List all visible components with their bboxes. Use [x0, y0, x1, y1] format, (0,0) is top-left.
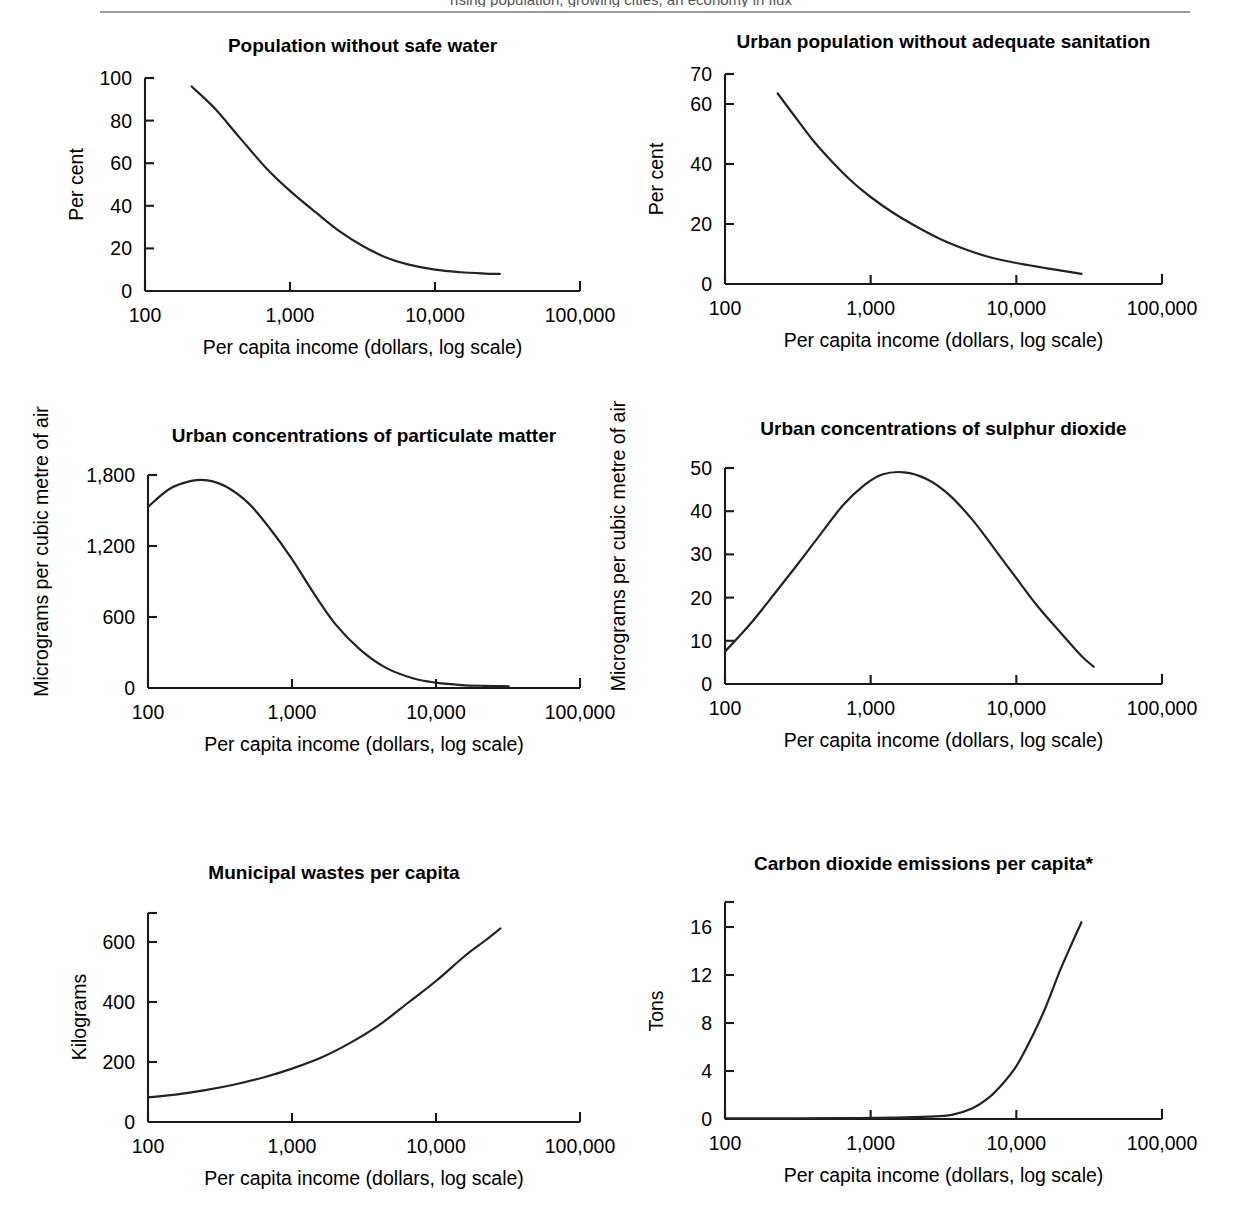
y-axis-tick-label: 1,200	[86, 535, 135, 557]
x-axis-tick-label: 10,000	[987, 297, 1047, 319]
x-axis-title: Per capita income (dollars, log scale)	[784, 329, 1104, 351]
x-axis-tick-label: 10,000	[987, 1132, 1047, 1154]
y-axis-title: Tons	[645, 990, 667, 1031]
y-axis-tick-label: 80	[110, 110, 132, 132]
y-axis-tick-label: 600	[102, 931, 135, 953]
x-axis-tick-label: 100	[709, 697, 742, 719]
cutoff-page-header: rising population, growing cities, an ec…	[0, 0, 1242, 7]
y-axis-tick-label: 0	[701, 273, 712, 295]
chart-title: Urban concentrations of particulate matt…	[172, 425, 557, 446]
x-axis-title: Per capita income (dollars, log scale)	[203, 336, 523, 358]
y-axis-tick-label: 16	[690, 916, 712, 938]
y-axis-tick-label: 40	[110, 195, 132, 217]
series-line	[148, 480, 509, 687]
chart-title: Urban concentrations of sulphur dioxide	[760, 418, 1126, 439]
x-axis-tick-label: 100,000	[545, 304, 616, 326]
y-axis-title: Per cent	[645, 142, 667, 215]
series-line	[778, 94, 1082, 274]
x-axis-tick-label: 100	[132, 701, 165, 723]
y-axis-tick-label: 20	[110, 237, 132, 259]
chart-panel-municipal-wastes-per-capita: Municipal wastes per capita0200400600100…	[0, 808, 621, 1212]
chart-panel-urban-concentrations-of-particulate-matter: Urban concentrations of particulate matt…	[0, 408, 621, 778]
y-axis-title: Kilograms	[68, 973, 90, 1060]
x-axis-tick-label: 1,000	[846, 1132, 895, 1154]
chart-panel-urban-concentrations-of-sulphur-dioxide: Urban concentrations of sulphur dioxide0…	[621, 408, 1242, 778]
y-axis-tick-label: 20	[690, 587, 712, 609]
x-axis-tick-label: 1,000	[268, 1135, 317, 1157]
y-axis-tick-label: 10	[690, 630, 712, 652]
series-line	[148, 929, 500, 1098]
x-axis-tick-label: 10,000	[406, 1135, 466, 1157]
series-line	[725, 472, 1094, 667]
x-axis-tick-label: 1,000	[846, 297, 895, 319]
x-axis-tick-label: 100,000	[1127, 1132, 1198, 1154]
y-axis-tick-label: 4	[701, 1060, 712, 1082]
y-axis-tick-label: 40	[690, 500, 712, 522]
y-axis-tick-label: 0	[701, 1108, 712, 1130]
y-axis-tick-label: 60	[110, 152, 132, 174]
x-axis-tick-label: 10,000	[987, 697, 1047, 719]
y-axis-title: Per cent	[65, 148, 87, 221]
y-axis-tick-label: 30	[690, 543, 712, 565]
series-line	[192, 87, 500, 274]
x-axis-tick-label: 100,000	[545, 1135, 616, 1157]
x-axis-tick-label: 100	[709, 1132, 742, 1154]
x-axis-title: Per capita income (dollars, log scale)	[784, 729, 1104, 751]
y-axis-tick-label: 0	[701, 673, 712, 695]
y-axis-tick-label: 60	[690, 93, 712, 115]
y-axis-tick-label: 70	[690, 63, 712, 85]
chart-title: Population without safe water	[228, 35, 498, 56]
y-axis-tick-label: 100	[99, 67, 132, 89]
chart-panel-population-without-safe-water: Population without safe water02040608010…	[0, 18, 621, 378]
chart-grid: Population without safe water02040608010…	[0, 18, 1242, 1212]
chart-title: Urban population without adequate sanita…	[737, 31, 1151, 52]
series-line	[725, 922, 1081, 1118]
y-axis-tick-label: 12	[690, 964, 712, 986]
y-axis-tick-label: 400	[102, 991, 135, 1013]
chart-panel-carbon-dioxide-emissions-per-capita: Carbon dioxide emissions per capita*0481…	[621, 808, 1242, 1212]
y-axis-tick-label: 50	[690, 457, 712, 479]
y-axis-tick-label: 20	[690, 213, 712, 235]
header-divider-rule	[100, 11, 1190, 13]
x-axis-tick-label: 100	[129, 304, 162, 326]
x-axis-tick-label: 1,000	[268, 701, 317, 723]
chart-panel-urban-population-without-adequate-sanitation: Urban population without adequate sanita…	[621, 18, 1242, 378]
x-axis-tick-label: 100	[132, 1135, 165, 1157]
x-axis-tick-label: 100,000	[1127, 697, 1198, 719]
y-axis-tick-label: 200	[102, 1051, 135, 1073]
y-axis-tick-label: 40	[690, 153, 712, 175]
x-axis-tick-label: 10,000	[405, 304, 465, 326]
x-axis-tick-label: 1,000	[846, 697, 895, 719]
x-axis-tick-label: 100,000	[545, 701, 616, 723]
x-axis-title: Per capita income (dollars, log scale)	[204, 1167, 524, 1189]
y-axis-title: Micrograms per cubic metre of air	[30, 406, 52, 697]
x-axis-title: Per capita income (dollars, log scale)	[204, 733, 524, 755]
y-axis-tick-label: 1,800	[86, 464, 135, 486]
y-axis-tick-label: 8	[701, 1012, 712, 1034]
y-axis-tick-label: 0	[124, 677, 135, 699]
x-axis-tick-label: 10,000	[406, 701, 466, 723]
y-axis-tick-label: 0	[121, 280, 132, 302]
chart-title: Municipal wastes per capita	[208, 862, 460, 883]
chart-title: Carbon dioxide emissions per capita*	[754, 853, 1094, 874]
x-axis-title: Per capita income (dollars, log scale)	[784, 1164, 1104, 1186]
x-axis-tick-label: 100,000	[1127, 297, 1198, 319]
x-axis-tick-label: 1,000	[266, 304, 315, 326]
y-axis-title: Micrograms per cubic metre of air	[607, 400, 629, 691]
y-axis-tick-label: 0	[124, 1111, 135, 1133]
y-axis-tick-label: 600	[102, 606, 135, 628]
x-axis-tick-label: 100	[709, 297, 742, 319]
